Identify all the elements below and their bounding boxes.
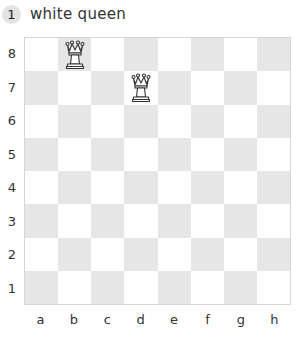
square-c2[interactable] bbox=[91, 238, 124, 271]
rank-label-3: 3 bbox=[6, 214, 18, 229]
square-d6[interactable] bbox=[124, 105, 157, 138]
square-b7[interactable] bbox=[58, 71, 91, 104]
file-label-b: b bbox=[57, 312, 90, 327]
square-h6[interactable] bbox=[257, 105, 290, 138]
rank-label-7: 7 bbox=[6, 80, 18, 95]
square-a2[interactable] bbox=[25, 238, 58, 271]
square-b4[interactable] bbox=[58, 171, 91, 204]
file-label-a: a bbox=[24, 312, 57, 327]
diagram-title: white queen bbox=[30, 5, 126, 23]
rank-label-4: 4 bbox=[6, 180, 18, 195]
square-e6[interactable] bbox=[158, 105, 191, 138]
square-h1[interactable] bbox=[257, 271, 290, 304]
square-b6[interactable] bbox=[58, 105, 91, 138]
file-label-h: h bbox=[258, 312, 291, 327]
square-e4[interactable] bbox=[158, 171, 191, 204]
square-a3[interactable] bbox=[25, 204, 58, 237]
square-b2[interactable] bbox=[58, 238, 91, 271]
square-c7[interactable] bbox=[91, 71, 124, 104]
square-b8[interactable] bbox=[58, 38, 91, 71]
square-g5[interactable] bbox=[224, 138, 257, 171]
square-g7[interactable] bbox=[224, 71, 257, 104]
square-h8[interactable] bbox=[257, 38, 290, 71]
square-a1[interactable] bbox=[25, 271, 58, 304]
square-d3[interactable] bbox=[124, 204, 157, 237]
square-g4[interactable] bbox=[224, 171, 257, 204]
diagram-header: 1 white queen bbox=[2, 3, 126, 25]
file-label-f: f bbox=[191, 312, 224, 327]
square-e8[interactable] bbox=[158, 38, 191, 71]
file-label-c: c bbox=[91, 312, 124, 327]
square-h5[interactable] bbox=[257, 138, 290, 171]
file-label-d: d bbox=[124, 312, 157, 327]
square-d1[interactable] bbox=[124, 271, 157, 304]
square-c8[interactable] bbox=[91, 38, 124, 71]
square-g3[interactable] bbox=[224, 204, 257, 237]
file-label-g: g bbox=[224, 312, 257, 327]
square-g2[interactable] bbox=[224, 238, 257, 271]
square-f7[interactable] bbox=[191, 71, 224, 104]
square-f5[interactable] bbox=[191, 138, 224, 171]
square-f6[interactable] bbox=[191, 105, 224, 138]
rank-label-2: 2 bbox=[6, 247, 18, 262]
square-h3[interactable] bbox=[257, 204, 290, 237]
rank-label-8: 8 bbox=[6, 46, 18, 61]
square-f3[interactable] bbox=[191, 204, 224, 237]
square-e1[interactable] bbox=[158, 271, 191, 304]
square-d8[interactable] bbox=[124, 38, 157, 71]
square-d4[interactable] bbox=[124, 171, 157, 204]
square-f8[interactable] bbox=[191, 38, 224, 71]
square-c6[interactable] bbox=[91, 105, 124, 138]
square-h4[interactable] bbox=[257, 171, 290, 204]
square-a4[interactable] bbox=[25, 171, 58, 204]
chess-board bbox=[24, 37, 291, 305]
square-a6[interactable] bbox=[25, 105, 58, 138]
white-queen-icon bbox=[64, 40, 86, 70]
square-e7[interactable] bbox=[158, 71, 191, 104]
square-b3[interactable] bbox=[58, 204, 91, 237]
square-h2[interactable] bbox=[257, 238, 290, 271]
square-f2[interactable] bbox=[191, 238, 224, 271]
square-d5[interactable] bbox=[124, 138, 157, 171]
diagram-number-badge: 1 bbox=[2, 5, 21, 24]
square-e3[interactable] bbox=[158, 204, 191, 237]
square-a5[interactable] bbox=[25, 138, 58, 171]
rank-label-1: 1 bbox=[6, 281, 18, 296]
square-a8[interactable] bbox=[25, 38, 58, 71]
square-e2[interactable] bbox=[158, 238, 191, 271]
square-c1[interactable] bbox=[91, 271, 124, 304]
white-queen-icon bbox=[130, 73, 152, 103]
rank-label-6: 6 bbox=[6, 113, 18, 128]
square-d7[interactable] bbox=[124, 71, 157, 104]
file-label-e: e bbox=[158, 312, 191, 327]
square-f1[interactable] bbox=[191, 271, 224, 304]
square-h7[interactable] bbox=[257, 71, 290, 104]
square-g1[interactable] bbox=[224, 271, 257, 304]
square-b1[interactable] bbox=[58, 271, 91, 304]
square-a7[interactable] bbox=[25, 71, 58, 104]
square-e5[interactable] bbox=[158, 138, 191, 171]
square-b5[interactable] bbox=[58, 138, 91, 171]
square-f4[interactable] bbox=[191, 171, 224, 204]
square-g6[interactable] bbox=[224, 105, 257, 138]
rank-label-5: 5 bbox=[6, 147, 18, 162]
square-d2[interactable] bbox=[124, 238, 157, 271]
square-c4[interactable] bbox=[91, 171, 124, 204]
square-g8[interactable] bbox=[224, 38, 257, 71]
square-c3[interactable] bbox=[91, 204, 124, 237]
square-c5[interactable] bbox=[91, 138, 124, 171]
